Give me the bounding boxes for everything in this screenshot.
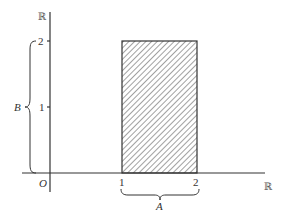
x-tick-label-2: 2 [193,176,199,188]
origin-label: O [39,177,47,189]
y-axis-label: ℝ [38,11,47,22]
x-tick-label-1: 1 [119,176,125,188]
hatched-region [122,41,197,173]
x-axis-label: ℝ [264,181,273,192]
brace-b [25,41,36,173]
brace-b-label: B [14,101,21,113]
brace-a [121,189,199,200]
y-tick-label-1: 1 [39,101,45,113]
y-tick-label-2: 2 [38,35,44,47]
brace-a-label: A [155,200,163,212]
diagram-canvas: ℝ ℝ 2 1 O 1 2 B A [0,0,286,215]
